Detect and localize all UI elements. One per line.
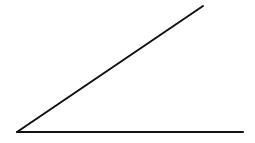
inclined-ray <box>17 6 203 132</box>
angle-diagram <box>0 0 255 143</box>
